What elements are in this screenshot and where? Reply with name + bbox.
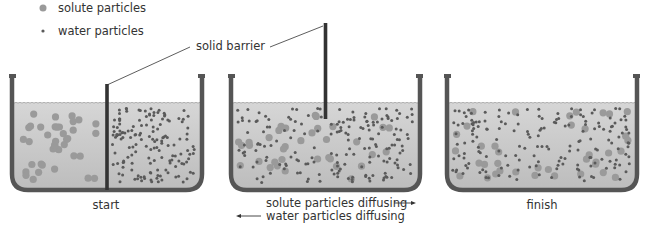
water-particle [265, 156, 268, 159]
legend-solute-label: solute particles [58, 1, 146, 15]
water-particle [318, 173, 321, 176]
water-particle [583, 179, 586, 182]
water-particle [118, 118, 121, 121]
water-particle [168, 120, 171, 123]
solute-particle [494, 160, 501, 167]
water-particle [609, 160, 612, 163]
water-particle [120, 138, 123, 141]
water-particle [368, 177, 371, 180]
water-particle [347, 177, 350, 180]
water-particle [452, 121, 455, 124]
water-particle [330, 123, 333, 126]
water-particle [609, 117, 612, 120]
water-particle [164, 134, 167, 137]
water-particle [527, 133, 530, 136]
water-particle [372, 124, 375, 127]
water-particle [536, 145, 539, 148]
solute-particle [463, 123, 470, 130]
water-particle [262, 175, 265, 178]
water-particle [320, 116, 323, 119]
water-particle [406, 116, 409, 119]
water-particle [564, 125, 567, 128]
water-particle [129, 136, 132, 139]
water-particle [463, 141, 466, 144]
water-particle [538, 173, 541, 176]
water-particle [119, 180, 122, 183]
water-particle [177, 175, 180, 178]
water-particle [396, 164, 399, 167]
water-particle [627, 155, 630, 158]
water-particle [185, 160, 188, 163]
water-particle [484, 111, 487, 114]
water-particle [149, 162, 152, 165]
water-particle [242, 152, 245, 155]
water-particle [579, 139, 582, 142]
water-particle [289, 136, 292, 139]
water-particle [623, 115, 626, 118]
solute-particle [52, 113, 59, 120]
water-particle [128, 146, 131, 149]
water-particle [296, 172, 299, 175]
water-particle [610, 141, 613, 144]
water-particle [258, 111, 261, 114]
solute-particle [275, 127, 282, 134]
water-particle [579, 113, 582, 116]
water-particle [615, 158, 618, 161]
water-particle [131, 162, 134, 165]
beaker-lip-left [228, 74, 235, 78]
water-particle [153, 146, 156, 149]
water-particle [179, 153, 182, 156]
water-particle [401, 144, 404, 147]
water-particle [173, 143, 176, 146]
water-particle [589, 137, 592, 140]
water-particle [138, 119, 141, 122]
water-particle [147, 157, 150, 160]
water-particle [376, 121, 379, 124]
solute-particle [30, 111, 37, 118]
water-particle [386, 161, 389, 164]
water-particle [533, 154, 536, 157]
water-particle [152, 114, 155, 117]
water-particle [627, 132, 630, 135]
water-particle [188, 153, 191, 156]
water-particle [498, 127, 501, 130]
solute-particle [545, 166, 552, 173]
solute-particle [38, 161, 45, 168]
solute-particle [246, 139, 253, 146]
water-particle [167, 171, 170, 174]
water-particle [348, 125, 351, 128]
water-particle [278, 163, 281, 166]
water-particle [526, 108, 529, 111]
solute-particle [85, 175, 92, 182]
water-particle [620, 118, 623, 121]
water-particle [394, 162, 397, 165]
water-particle [475, 135, 478, 138]
water-particle [112, 125, 115, 128]
water-particle [160, 142, 163, 145]
water-particle [477, 146, 480, 149]
water-particle [125, 107, 128, 110]
water-particle [140, 138, 143, 141]
water-particle [396, 117, 399, 120]
legend-water-icon [41, 29, 44, 32]
water-particle [472, 123, 475, 126]
water-particle [139, 132, 142, 135]
water-particle [136, 177, 139, 180]
water-particle [556, 112, 559, 115]
water-particle [374, 143, 377, 146]
water-particle [607, 138, 610, 141]
water-particle [140, 179, 143, 182]
water-particle [593, 127, 596, 130]
water-particle [349, 118, 352, 121]
water-particle [156, 128, 159, 131]
water-particle [598, 125, 601, 128]
barrier-label: solid barrier [196, 39, 265, 53]
water-particle [113, 118, 116, 121]
water-particle [456, 143, 459, 146]
water-particle [576, 167, 579, 170]
water-particle [187, 115, 190, 118]
beaker-1 [9, 74, 205, 190]
water-particle [458, 154, 461, 157]
water-particle [339, 126, 342, 129]
water-particle [390, 119, 393, 122]
